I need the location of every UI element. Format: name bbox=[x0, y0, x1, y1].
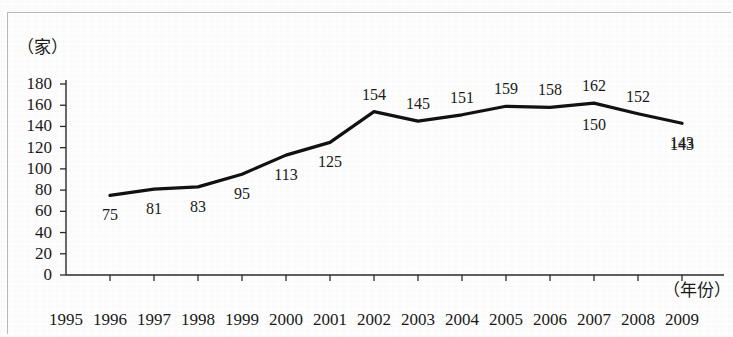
x-tick-label: 2008 bbox=[616, 311, 660, 328]
data-point-label: 151 bbox=[442, 90, 482, 106]
data-point-label: 152 bbox=[618, 89, 658, 105]
x-tick-label: 1995 bbox=[44, 311, 88, 328]
y-tick-label: 0 bbox=[10, 266, 52, 283]
x-tick-label: 1998 bbox=[176, 311, 220, 328]
chart-page: （家） （年份） 180160140120100806040200 199519… bbox=[0, 0, 733, 337]
x-tick-label: 2009 bbox=[660, 311, 704, 328]
x-tick-label: 2000 bbox=[264, 311, 308, 328]
data-point-label: 162 bbox=[574, 78, 614, 94]
data-point-label-secondary: 143 bbox=[662, 137, 702, 153]
y-tick-label: 60 bbox=[10, 202, 52, 219]
data-point-label: 113 bbox=[266, 167, 306, 183]
y-tick-label: 40 bbox=[10, 224, 52, 241]
x-tick-label: 2007 bbox=[572, 311, 616, 328]
data-point-label: 145 bbox=[398, 96, 438, 112]
data-point-label-secondary: 150 bbox=[574, 117, 614, 133]
data-point-label: 75 bbox=[90, 207, 130, 223]
y-tick-label: 100 bbox=[10, 160, 52, 177]
y-tick-label: 120 bbox=[10, 139, 52, 156]
x-tick-label: 1999 bbox=[220, 311, 264, 328]
line-chart-plot bbox=[0, 0, 733, 337]
data-point-label: 125 bbox=[310, 154, 350, 170]
x-axis-tick-marks bbox=[110, 275, 682, 281]
data-point-label: 154 bbox=[354, 87, 394, 103]
y-tick-label: 180 bbox=[10, 75, 52, 92]
x-tick-label: 1997 bbox=[132, 311, 176, 328]
y-tick-label: 80 bbox=[10, 181, 52, 198]
x-tick-label: 2001 bbox=[308, 311, 352, 328]
y-tick-label: 160 bbox=[10, 96, 52, 113]
y-tick-label: 20 bbox=[10, 245, 52, 262]
data-point-label: 81 bbox=[134, 201, 174, 217]
y-axis-tick-marks bbox=[60, 84, 66, 275]
data-point-label: 158 bbox=[530, 82, 570, 98]
x-tick-label: 2003 bbox=[396, 311, 440, 328]
y-tick-label: 140 bbox=[10, 117, 52, 134]
data-point-label: 95 bbox=[222, 186, 262, 202]
x-tick-label: 2006 bbox=[528, 311, 572, 328]
data-point-label: 83 bbox=[178, 199, 218, 215]
data-point-label: 159 bbox=[486, 81, 526, 97]
x-tick-label: 2004 bbox=[440, 311, 484, 328]
x-tick-label: 2005 bbox=[484, 311, 528, 328]
x-tick-label: 1996 bbox=[88, 311, 132, 328]
x-tick-label: 2002 bbox=[352, 311, 396, 328]
